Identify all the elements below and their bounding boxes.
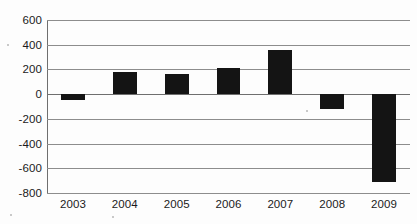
scan-speck [10,214,12,216]
bar-2006 [217,68,241,95]
gridline-zero [47,94,410,95]
x-tick-label-2007: 2007 [254,198,306,218]
x-tick-label-2008: 2008 [306,198,358,218]
y-tick-label-400: 400 [4,39,42,51]
y-tick-label-neg600: -600 [4,162,42,174]
gridline-400 [47,45,410,46]
scan-speck [112,216,114,218]
bar-2009 [372,94,396,182]
x-tick-label-2003: 2003 [47,198,99,218]
bar-2004 [113,72,137,94]
scan-speck [7,44,9,46]
gridline-neg800 [47,193,410,194]
x-tick-label-2004: 2004 [99,198,151,218]
bar-2007 [268,50,292,94]
bar-2008 [320,94,344,109]
x-tick-label-2005: 2005 [151,198,203,218]
y-tick-label-neg400: -400 [4,138,42,150]
bar-2005 [165,74,189,94]
bar-chart: 600 400 200 0 -200 -400 -600 -800 2003 2… [0,0,417,224]
x-tick-label-2009: 2009 [358,198,410,218]
bar-2003 [61,94,85,100]
gridline-neg600 [47,168,410,169]
plot-area [47,20,410,193]
y-tick-label-neg800: -800 [4,187,42,199]
y-tick-label-0: 0 [4,88,42,100]
scan-speck [306,110,308,112]
gridline-neg400 [47,144,410,145]
y-tick-label-200: 200 [4,63,42,75]
y-tick-label-600: 600 [4,14,42,26]
gridline-neg200 [47,119,410,120]
y-tick-label-neg200: -200 [4,113,42,125]
gridline-600 [47,20,410,21]
x-axis-labels: 2003 2004 2005 2006 2007 2008 2009 [47,198,410,218]
y-axis-labels: 600 400 200 0 -200 -400 -600 -800 [0,0,42,224]
x-tick-label-2006: 2006 [203,198,255,218]
